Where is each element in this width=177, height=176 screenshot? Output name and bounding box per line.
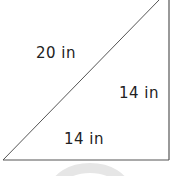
hypotenuse-label: 20 in [36, 44, 76, 62]
vertical-leg-label: 14 in [119, 84, 159, 102]
watermark-arc [55, 168, 125, 176]
triangle-diagram: 20 in 14 in 14 in [0, 0, 177, 176]
horizontal-leg-label: 14 in [64, 130, 104, 148]
